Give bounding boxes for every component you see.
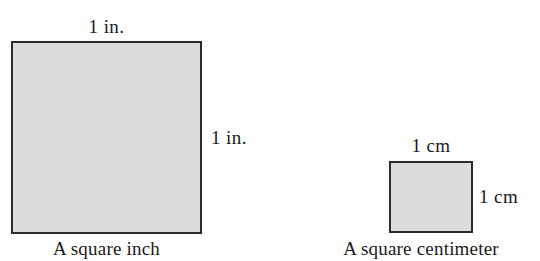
square-inch-shape (11, 41, 202, 234)
square-centimeter-caption: A square centimeter (310, 239, 532, 258)
square-centimeter-top-dimension-label: 1 cm (370, 136, 492, 155)
figure-canvas: 1 in. 1 in. A square inch 1 cm 1 cm A sq… (0, 0, 540, 261)
square-inch-caption: A square inch (0, 239, 213, 258)
square-centimeter-right-dimension-label: 1 cm (479, 187, 518, 206)
square-inch-right-dimension-label: 1 in. (211, 128, 247, 147)
square-inch-top-dimension-label: 1 in. (0, 17, 213, 36)
square-centimeter-shape (389, 161, 473, 233)
